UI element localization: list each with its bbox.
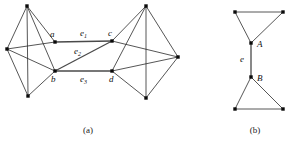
edge-leftwest-leftbottom: [7, 49, 28, 96]
edge-bottomright-B: [251, 77, 283, 109]
caption-panel-b: (b): [250, 125, 261, 135]
vertex-label-A: A: [256, 39, 263, 49]
edge-e2-b-c-label: e2: [74, 46, 81, 57]
vertex-a: [53, 40, 56, 43]
vertex-left-bottom: [26, 94, 29, 97]
captions-layer: (a)(b): [83, 125, 260, 135]
vertex-c: [110, 39, 113, 42]
edge-righteast-d: [112, 57, 178, 71]
vertex-label-B: B: [257, 73, 263, 83]
edge-lefttop-leftbottom: [27, 6, 28, 96]
vertex-B: [249, 75, 252, 78]
vertex-label-a: a: [50, 29, 55, 39]
edge-topleft-A: [235, 12, 251, 43]
edge-leftwest-b: [7, 49, 55, 71]
edge-e1-a-c-label-subscript: 1: [84, 33, 87, 39]
edge-e2-b-c: [55, 41, 112, 71]
edge-e2-b-c-label-subscript: 2: [78, 51, 81, 57]
edge-righttop-d: [112, 6, 146, 71]
vertex-bottom-left-corner: [233, 107, 236, 110]
edge-leftwest-a: [7, 42, 55, 49]
vertex-bottom-right-corner: [281, 107, 284, 110]
edge-e1-a-c-label: e1: [80, 28, 87, 39]
vertex-b: [53, 69, 56, 72]
vertex-left-west: [5, 47, 8, 50]
graph-figure-canvas: e1e2e3abcdeAB (a)(b): [0, 0, 289, 152]
vertex-right-top: [144, 4, 147, 7]
vertex-right-bottom: [144, 96, 147, 99]
edge-e-A-B-label: e: [240, 54, 244, 64]
edge-lefttop-leftwest: [7, 6, 27, 49]
edge-righteast-c: [112, 41, 178, 57]
edge-e3-b-d-label: e3: [80, 74, 87, 85]
edge-e3-b-d-label-subscript: 3: [83, 79, 87, 85]
vertex-left-top: [25, 4, 28, 7]
edge-righttop-c: [112, 6, 146, 41]
edge-e1-a-c: [55, 41, 112, 42]
vertex-label-b: b: [51, 74, 56, 84]
edge-righttop-righteast: [146, 6, 178, 57]
vertex-label-d: d: [109, 74, 114, 84]
edge-bottomleft-B: [235, 77, 251, 109]
vertex-right-east: [176, 55, 179, 58]
vertex-top-left-corner: [233, 10, 236, 13]
edge-rightbottom-d: [112, 71, 146, 98]
figure-root: e1e2e3abcdeAB (a)(b): [0, 0, 289, 152]
edge-topright-A: [251, 12, 283, 43]
vertex-A: [249, 41, 252, 44]
vertex-label-c: c: [108, 28, 112, 38]
vertex-top-right-corner: [281, 10, 284, 13]
vertex-d: [110, 69, 113, 72]
caption-panel-a: (a): [83, 125, 93, 135]
